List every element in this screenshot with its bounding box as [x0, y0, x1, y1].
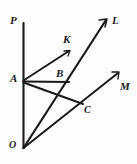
point-label-P: P [10, 15, 17, 26]
geometry-figure: P K L A B M C O [0, 0, 137, 164]
point-label-K: K [63, 34, 70, 45]
point-label-B: B [56, 68, 63, 79]
point-label-A: A [10, 73, 17, 84]
point-label-C: C [84, 105, 91, 115]
point-label-M: M [120, 81, 130, 92]
ray-OM [24, 73, 119, 148]
point-label-O: O [9, 140, 16, 150]
point-label-L: L [112, 15, 119, 26]
segment-AB [24, 82, 70, 83]
